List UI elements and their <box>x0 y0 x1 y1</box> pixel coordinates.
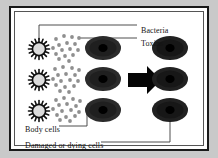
leader-line-bacteria <box>39 25 137 40</box>
body-cell <box>85 67 121 91</box>
diagram-inner-frame: Bacteria Toxins Body cells Damaged or dy… <box>14 11 204 146</box>
toxin-dots-group <box>51 34 82 123</box>
body-cell <box>85 36 121 60</box>
bacterium-icon <box>29 70 50 91</box>
label-toxins: Toxins <box>141 39 163 48</box>
diagram-canvas: Bacteria Toxins Body cells Damaged or dy… <box>15 12 203 145</box>
bacterium-icon <box>29 101 50 122</box>
body-cell <box>85 98 121 122</box>
label-damaged-cells: Damaged or dying cells <box>25 141 103 150</box>
label-bacteria: Bacteria <box>141 26 168 35</box>
figure-root: Bacteria Toxins Body cells Damaged or dy… <box>0 0 218 158</box>
label-body-cells: Body cells <box>25 125 60 134</box>
leader-line-body-cells <box>59 110 87 126</box>
diagram-outer-frame: Bacteria Toxins Body cells Damaged or dy… <box>9 6 209 151</box>
bacterium-icon <box>29 39 50 60</box>
leader-line-damaged-cells <box>101 110 170 142</box>
damaged-cell <box>152 67 188 91</box>
process-arrow-icon <box>128 66 161 94</box>
damaged-cell <box>152 98 188 122</box>
